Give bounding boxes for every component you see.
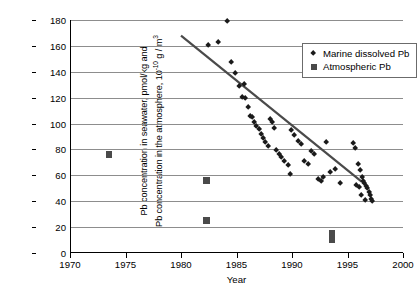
y-axis-tick-label: 100	[38, 118, 66, 129]
y-axis-tick-mark	[32, 149, 36, 150]
square-marker-icon	[308, 60, 321, 73]
y-axis-tick-mark	[32, 124, 36, 125]
x-axis-tick-mark	[181, 253, 182, 258]
y-axis-tick-mark	[32, 227, 36, 228]
y-axis-tick-labels: 020406080100120140160180	[36, 20, 66, 253]
y-axis-tick-mark	[32, 46, 36, 47]
x-axis-tick-mark	[126, 253, 127, 258]
y-axis-tick-label: 180	[38, 15, 66, 26]
y-axis-tick-label: 160	[38, 40, 66, 51]
y-axis-tick-label: 120	[38, 92, 66, 103]
x-axis-tick-label: 1970	[50, 259, 90, 270]
legend-label-marine-dissolved-pb: Marine dissolved Pb	[321, 48, 409, 59]
y-axis-tick-mark	[32, 20, 36, 21]
y-axis-tick-label: 60	[38, 170, 66, 181]
y-axis-tick-mark	[32, 72, 36, 73]
x-axis-tick-mark	[348, 253, 349, 258]
chart-figure: Pb concentration in seawater, pmol/kg an…	[0, 0, 420, 300]
x-axis-label: Year	[70, 274, 403, 285]
x-axis-tick-label: 1985	[217, 259, 257, 270]
plot-area: Marine dissolved Pb Atmospheric Pb	[70, 20, 403, 253]
x-axis-tick-label: 1990	[272, 259, 312, 270]
y-axis-tick-label: 80	[38, 144, 66, 155]
x-axis-tick-mark	[70, 253, 71, 258]
x-axis-tick-mark	[292, 253, 293, 258]
y-axis-tick-label: 140	[38, 66, 66, 77]
y-axis-tick-mark	[32, 98, 36, 99]
y-axis-tick-label: 0	[38, 248, 66, 259]
legend-item-atmospheric-pb: Atmospheric Pb	[308, 60, 409, 73]
x-axis-tick-label: 2000	[383, 259, 420, 270]
y-axis-tick-mark	[32, 201, 36, 202]
diamond-marker-icon	[308, 47, 321, 60]
x-axis-tick-label: 1995	[328, 259, 368, 270]
y-axis-tick-mark	[32, 253, 36, 254]
legend: Marine dissolved Pb Atmospheric Pb	[302, 43, 417, 78]
x-axis-tick-label: 1980	[161, 259, 201, 270]
y-axis-tick-mark	[32, 175, 36, 176]
x-axis-tick-mark	[403, 253, 404, 258]
y-axis-tick-label: 40	[38, 196, 66, 207]
y-axis-tick-label: 20	[38, 222, 66, 233]
x-axis-tick-label: 1975	[106, 259, 146, 270]
x-axis-tick-mark	[237, 253, 238, 258]
legend-label-atmospheric-pb: Atmospheric Pb	[321, 61, 391, 72]
legend-item-marine-dissolved-pb: Marine dissolved Pb	[308, 47, 409, 60]
x-axis-tick-labels: 1970197519801985199019952000	[70, 259, 403, 273]
